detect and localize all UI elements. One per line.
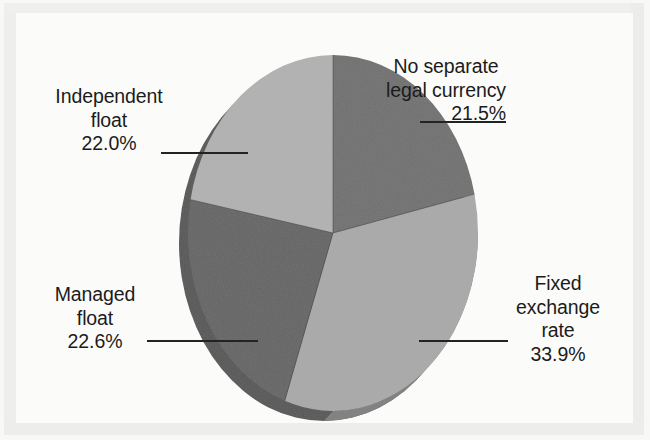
slice-label-line: float <box>54 109 164 133</box>
slice-label-line: Managed <box>43 283 147 307</box>
pie-chart-figure <box>0 0 650 440</box>
slice-label-line: Fixed <box>512 272 604 296</box>
slice-label-line: float <box>43 307 147 331</box>
slice-label-line: Independent <box>54 85 164 109</box>
slice-percent-value: 33.9% <box>512 343 604 367</box>
slice-label-fixed-exchange-rate: Fixed exchange rate 33.9% <box>512 272 604 366</box>
slice-percent-value: 22.6% <box>43 330 147 354</box>
slice-label-independent-float: Independent float 22.0% <box>54 85 164 156</box>
slice-label-line: legal currency <box>386 79 506 103</box>
slice-label-line: rate <box>512 319 604 343</box>
slice-label-line: No separate <box>386 55 506 79</box>
slice-percent-value: 21.5% <box>386 102 506 126</box>
slice-percent-value: 22.0% <box>54 132 164 156</box>
slice-label-no-separate-legal-currency: No separate legal currency 21.5% <box>386 55 506 126</box>
slice-label-line: exchange <box>512 296 604 320</box>
slice-label-managed-float: Managed float 22.6% <box>43 283 147 354</box>
